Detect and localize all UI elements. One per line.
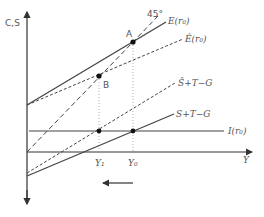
curve-e <box>27 22 166 105</box>
curve-i-label: I(r₀) <box>227 126 247 136</box>
point-y1-i <box>97 129 102 134</box>
point-a-label: A <box>126 29 133 39</box>
point-b <box>96 73 101 78</box>
line-45-label: 45° <box>147 9 163 19</box>
curve-s-label: S+T−G <box>176 109 210 119</box>
y1-tick-label: Y₁ <box>95 158 105 168</box>
point-a <box>130 39 135 44</box>
y0-tick-label: Y₀ <box>128 158 138 168</box>
x-axis-label: Y <box>243 155 250 165</box>
y-axis-label: C,S <box>5 18 20 28</box>
curve-e-label: E(r₀) <box>167 16 190 26</box>
point-y0-i <box>131 129 136 134</box>
curve-e-hat-label: Ê(r₀) <box>184 33 207 44</box>
point-b-label: B <box>103 80 109 90</box>
is-diagram: C,S Y 45° E(r₀) Ê(r₀) Ŝ+T−G S+T−G I(r₀) … <box>0 0 264 217</box>
curve-e-hat <box>27 39 183 105</box>
curve-s-hat-label: Ŝ+T−G <box>178 77 212 88</box>
